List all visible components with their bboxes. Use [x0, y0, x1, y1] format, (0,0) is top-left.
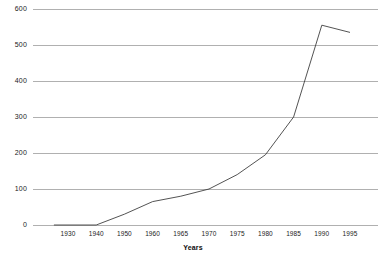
series-line-1 [54, 25, 350, 225]
y-tick-label-400: 400 [0, 77, 27, 85]
y-tick-label-0: 0 [0, 221, 27, 229]
y-tick-label-500: 500 [0, 41, 27, 49]
x-tick-label-1995: 1995 [343, 230, 358, 238]
x-tick-label-1940: 1940 [89, 230, 104, 238]
x-tick-label-1970: 1970 [202, 230, 217, 238]
data-series-lines [54, 25, 350, 225]
x-axis-title: Years [0, 243, 386, 252]
x-tick-label-1980: 1980 [258, 230, 273, 238]
line-chart: 0100200300400500600 19301940195019601965… [0, 0, 386, 256]
y-tick-label-600: 600 [0, 5, 27, 13]
x-tick-label-1930: 1930 [61, 230, 76, 238]
y-tick-label-100: 100 [0, 185, 27, 193]
x-tick-label-1950: 1950 [117, 230, 132, 238]
y-tick-label-300: 300 [0, 113, 27, 121]
x-tick-label-1975: 1975 [230, 230, 245, 238]
gridlines [33, 10, 378, 226]
x-tick-label-1965: 1965 [173, 230, 188, 238]
x-tick-label-1960: 1960 [145, 230, 160, 238]
y-tick-label-200: 200 [0, 149, 27, 157]
x-tick-label-1985: 1985 [286, 230, 301, 238]
x-tick-label-1990: 1990 [314, 230, 329, 238]
chart-plot-area [0, 0, 386, 256]
